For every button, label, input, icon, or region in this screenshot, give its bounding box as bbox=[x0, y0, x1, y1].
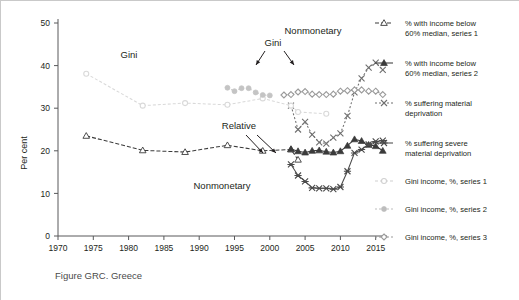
y-tick-label: 10 bbox=[41, 189, 51, 199]
annotation-gini-right: Gini bbox=[265, 37, 282, 48]
legend-label: % with income below bbox=[405, 59, 476, 68]
data-point-circle-filled bbox=[246, 86, 251, 91]
legend-label: % with income below bbox=[405, 19, 476, 28]
data-point-circle-open bbox=[225, 102, 230, 107]
annotation-gini-left: Gini bbox=[121, 49, 138, 60]
data-point-circle-filled bbox=[253, 90, 258, 95]
y-tick-label: 0 bbox=[45, 231, 50, 241]
data-point-circle-filled bbox=[232, 89, 237, 94]
data-point-circle-open bbox=[183, 101, 188, 106]
y-tick-label: 50 bbox=[41, 18, 51, 28]
annotation-relative: Relative bbox=[222, 120, 256, 131]
figure-caption: Figure GRC. Greece bbox=[55, 270, 142, 281]
legend-label: Gini income, %, series 3 bbox=[405, 233, 487, 242]
data-point-circle-filled bbox=[239, 86, 244, 91]
legend-label: 60% median, series 1 bbox=[405, 29, 478, 38]
x-tick-label: 2000 bbox=[260, 243, 279, 253]
data-point-circle-filled bbox=[382, 207, 387, 212]
y-tick-label: 30 bbox=[41, 103, 51, 113]
legend-label: % suffering severe bbox=[405, 139, 468, 148]
legend-label: % suffering material bbox=[405, 99, 472, 108]
legend-label: Gini income, %, series 2 bbox=[405, 205, 487, 214]
x-tick-label: 1995 bbox=[225, 243, 244, 253]
chart-svg: 0102030405019701975198019851990199520002… bbox=[1, 1, 519, 300]
legend-label: material deprivation bbox=[405, 149, 471, 158]
data-point-circle-open bbox=[288, 103, 293, 108]
x-tick-label: 1970 bbox=[49, 243, 68, 253]
data-point-circle-filled bbox=[260, 92, 265, 97]
data-point-circle-open bbox=[382, 179, 387, 184]
data-point-circle-filled bbox=[225, 85, 230, 90]
data-point-circle-open bbox=[140, 103, 145, 108]
annotation-nonmonetary-high: Nonmonetary bbox=[284, 25, 341, 36]
y-tick-label: 20 bbox=[41, 146, 51, 156]
x-tick-label: 1990 bbox=[190, 243, 209, 253]
data-point-circle-open bbox=[296, 110, 301, 115]
y-tick-label: 40 bbox=[41, 61, 51, 71]
x-tick-label: 2010 bbox=[331, 243, 350, 253]
legend-label: Gini income, %, series 1 bbox=[405, 177, 487, 186]
y-axis-label: Per cent bbox=[19, 136, 29, 170]
x-tick-label: 1985 bbox=[154, 243, 173, 253]
x-tick-label: 1975 bbox=[84, 243, 103, 253]
legend-label: deprivation bbox=[405, 109, 442, 118]
legend-label: 60% median, series 2 bbox=[405, 69, 478, 78]
x-tick-label: 1980 bbox=[119, 243, 138, 253]
annotation-nonmonetary-low: Nonmonetary bbox=[193, 180, 250, 191]
figure-container: 0102030405019701975198019851990199520002… bbox=[0, 0, 519, 300]
data-point-circle-open bbox=[324, 111, 329, 116]
x-tick-label: 2005 bbox=[296, 243, 315, 253]
data-point-circle-filled bbox=[267, 93, 272, 98]
x-tick-label: 2015 bbox=[366, 243, 385, 253]
data-point-circle-open bbox=[84, 71, 89, 76]
